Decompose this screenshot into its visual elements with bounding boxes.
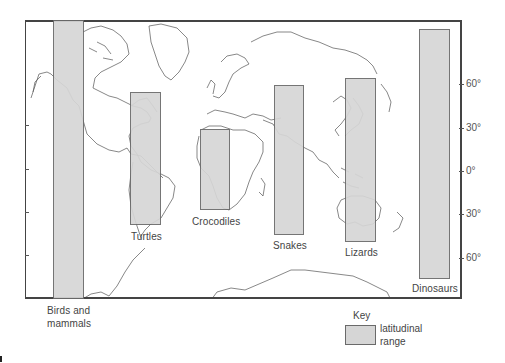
range-bar-turtles [130,92,161,225]
axis-tick-60s [459,258,464,259]
range-bar-snakes [274,85,304,235]
label-snakes: Snakes [273,240,307,251]
axis-tick-30n [459,128,464,129]
axis-label-0: 0° [466,165,476,176]
range-bar-crocodiles [200,129,230,210]
axis-tick-30s [459,214,464,215]
legend-swatch-latitudinal-range [345,325,376,345]
page-corner-mark [0,356,2,362]
label-birds-line2: mammals [47,317,91,330]
left-tick [25,169,29,170]
axis-tick-0 [459,171,464,172]
range-bar-birds-and-mammals [53,20,84,299]
label-birds-and-mammals: Birds and mammals [47,304,91,330]
latitudinal-range-map-figure: Birds and mammals Turtles Crocodiles Sna… [0,0,505,363]
axis-tick-60n [459,84,464,85]
coastline-map [26,22,462,299]
world-map-frame [25,20,462,299]
label-birds-line1: Birds and [47,304,91,317]
legend-label: latitudinal range [380,322,422,348]
label-dinosaurs: Dinosaurs [412,283,458,294]
axis-label-60n: 60° [466,78,481,89]
label-lizards: Lizards [345,247,378,258]
legend-label-line1: latitudinal [380,322,422,335]
legend-title: Key [353,310,370,321]
legend-label-line2: range [380,335,422,348]
label-turtles: Turtles [131,231,162,242]
left-tick [25,255,29,256]
axis-label-60s: 60° [466,252,481,263]
range-bar-dinosaurs [419,29,450,279]
left-tick [25,125,29,126]
label-crocodiles: Crocodiles [192,216,240,227]
axis-label-30s: 30° [466,208,481,219]
range-bar-lizards [345,78,376,242]
axis-label-30n: 30° [466,122,481,133]
left-tick [25,212,29,213]
